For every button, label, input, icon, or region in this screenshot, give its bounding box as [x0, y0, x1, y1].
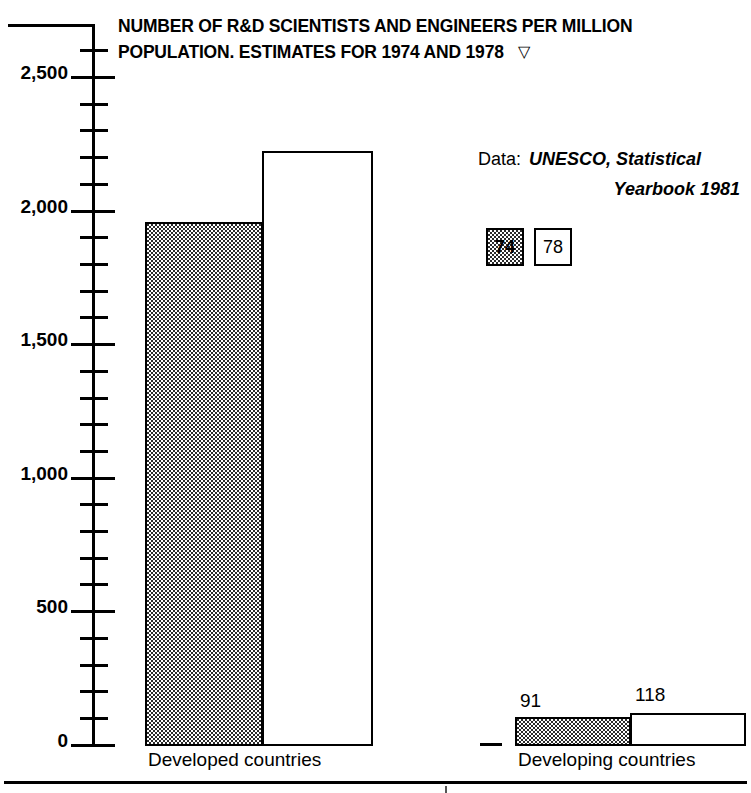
y-axis-tick-label: 2,500 — [0, 62, 68, 84]
y-axis-tick-label: 2,000 — [0, 196, 68, 218]
category-label-developing: Developing countries — [518, 749, 695, 771]
chart-canvas: NUMBER OF R&D SCIENTISTS AND ENGINEERS P… — [0, 0, 751, 793]
bar-value-developing-74: 91 — [520, 690, 541, 712]
y-axis-major-tick — [71, 477, 115, 480]
y-axis-minor-tick — [80, 156, 108, 159]
y-axis-minor-tick — [80, 423, 108, 426]
data-source-value-1: UNESCO, Statistical — [529, 149, 701, 169]
y-axis-minor-tick — [80, 316, 108, 319]
y-axis-minor-tick — [80, 717, 108, 720]
y-axis-major-tick — [71, 210, 115, 213]
y-axis-minor-tick — [80, 397, 108, 400]
chart-title-line-2-wrap: POPULATION. ESTIMATES FOR 1974 AND 1978▽ — [118, 39, 738, 65]
y-axis-minor-tick — [80, 49, 108, 52]
y-axis-minor-tick — [80, 664, 108, 667]
y-axis-minor-tick — [80, 183, 108, 186]
y-axis-minor-tick — [80, 263, 108, 266]
y-axis-minor-tick — [80, 690, 108, 693]
y-axis-minor-tick — [80, 583, 108, 586]
y-axis-labels: 2,500 2,000 1,500 1,000 500 0 — [0, 0, 68, 793]
y-axis-minor-tick — [80, 290, 108, 293]
y-axis-major-tick — [71, 76, 115, 79]
y-axis-minor-tick — [80, 103, 108, 106]
category-label-developed: Developed countries — [148, 749, 321, 771]
chart-title: NUMBER OF R&D SCIENTISTS AND ENGINEERS P… — [118, 14, 738, 65]
footer-tick-mark — [445, 786, 447, 793]
bar-developed-74 — [145, 222, 263, 746]
bar-developed-78 — [262, 151, 373, 746]
y-axis-major-tick — [71, 343, 115, 346]
y-axis-major-tick — [71, 610, 115, 613]
legend-key-78: 78 — [534, 228, 572, 266]
chart-title-line-1: NUMBER OF R&D SCIENTISTS AND ENGINEERS P… — [118, 14, 738, 39]
y-axis-minor-tick — [80, 236, 108, 239]
data-source-line-1: Data:UNESCO, Statistical — [478, 144, 746, 174]
data-source-value-2: Yearbook 1981 — [478, 174, 746, 204]
data-source-note: Data:UNESCO, Statistical Yearbook 1981 — [478, 144, 746, 204]
y-axis-tick-label: 1,000 — [0, 463, 68, 485]
y-axis-tick-label: 500 — [0, 596, 68, 618]
legend-key-78-label: 78 — [542, 237, 564, 258]
bar-developing-78 — [630, 713, 746, 746]
chart-title-line-2: POPULATION. ESTIMATES FOR 1974 AND 1978 — [118, 42, 504, 62]
y-axis-tick-label: 1,500 — [0, 329, 68, 351]
legend-key-74: 74 — [486, 228, 524, 266]
y-axis-minor-tick — [80, 557, 108, 560]
y-axis-minor-tick — [80, 129, 108, 132]
y-axis-tick-label: 0 — [0, 730, 68, 752]
y-axis-major-tick — [71, 744, 115, 747]
y-axis-minor-tick — [80, 637, 108, 640]
y-axis-minor-tick — [80, 530, 108, 533]
bar-value-developing-78: 118 — [635, 684, 665, 706]
footer-divider — [4, 781, 747, 784]
zero-marker-dash — [480, 743, 502, 746]
legend: 74 78 — [486, 228, 572, 266]
data-source-label: Data: — [478, 149, 521, 169]
legend-key-74-label: 74 — [494, 237, 516, 258]
bar-developing-74 — [515, 717, 631, 746]
y-axis-minor-tick — [80, 450, 108, 453]
y-axis-minor-tick — [80, 503, 108, 506]
y-axis-minor-tick — [80, 370, 108, 373]
down-triangle-icon: ▽ — [518, 39, 530, 64]
